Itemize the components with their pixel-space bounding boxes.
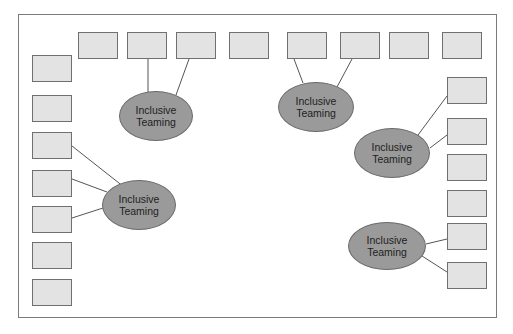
member-box-top-5 [287, 32, 327, 59]
connector-line [176, 59, 189, 95]
member-box-right-3 [447, 154, 487, 181]
connector-line [337, 59, 352, 87]
connector-line [430, 135, 447, 148]
node-label: Inclusive Teaming [372, 141, 413, 165]
connector-line [422, 256, 447, 272]
connector-line [418, 96, 447, 135]
connector-line [72, 146, 124, 187]
member-box-left-3 [32, 132, 72, 159]
node-label: Inclusive Teaming [367, 234, 408, 258]
member-box-top-2 [127, 32, 167, 59]
member-box-left-7 [32, 279, 72, 306]
member-box-right-1 [447, 77, 487, 104]
member-box-top-3 [176, 32, 216, 59]
inclusive-teaming-node: Inclusive Teaming [119, 91, 193, 141]
member-box-top-6 [340, 32, 380, 59]
inclusive-teaming-node: Inclusive Teaming [348, 222, 426, 270]
inclusive-teaming-node: Inclusive Teaming [102, 180, 176, 230]
connector-line [294, 59, 303, 83]
member-box-top-4 [229, 32, 269, 59]
member-box-top-7 [389, 32, 429, 59]
diagram-canvas: Inclusive TeamingInclusive TeamingInclus… [0, 0, 513, 334]
member-box-right-4 [447, 190, 487, 217]
member-box-right-6 [447, 262, 487, 289]
member-box-left-1 [32, 55, 72, 82]
member-box-left-4 [32, 170, 72, 197]
connector-line [72, 208, 103, 218]
member-box-right-2 [447, 118, 487, 145]
member-box-top-8 [442, 32, 482, 59]
connector-line [72, 179, 107, 192]
inclusive-teaming-node: Inclusive Teaming [354, 128, 430, 178]
member-box-left-5 [32, 206, 72, 233]
inclusive-teaming-node: Inclusive Teaming [278, 82, 354, 132]
node-label: Inclusive Teaming [296, 95, 337, 119]
member-box-left-2 [32, 95, 72, 122]
node-label: Inclusive Teaming [136, 104, 177, 128]
connector-line [426, 239, 447, 244]
node-label: Inclusive Teaming [119, 193, 160, 217]
member-box-top-1 [78, 32, 118, 59]
member-box-right-5 [447, 223, 487, 250]
member-box-left-6 [32, 242, 72, 269]
